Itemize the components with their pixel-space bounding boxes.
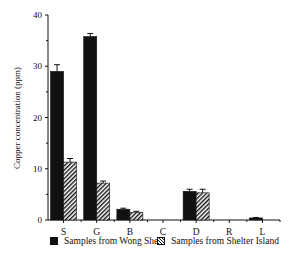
legend-item-wong-shek: Samples from Wong Shek (50, 236, 163, 246)
y-tick-label: 30 (33, 61, 43, 71)
bar (117, 209, 130, 220)
bar (249, 218, 262, 220)
bar (130, 212, 143, 220)
bar (51, 71, 64, 220)
x-tick-label: B (127, 227, 133, 236)
y-tick-label: 10 (33, 164, 43, 174)
x-tick-label: C (160, 227, 166, 236)
legend-label: Samples from Shelter Island (171, 236, 279, 246)
x-tick-label: D (193, 227, 200, 236)
bar (183, 191, 196, 220)
x-tick-label: S (61, 227, 66, 236)
x-tick-label: L (260, 227, 266, 236)
y-tick-label: 40 (33, 10, 43, 20)
legend-label: Samples from Wong Shek (64, 236, 163, 246)
bar (64, 162, 77, 220)
x-tick-label: R (226, 227, 233, 236)
bar (97, 183, 110, 220)
legend-item-shelter-island: Samples from Shelter Island (157, 236, 279, 246)
bar (84, 37, 97, 220)
chart-legend: Samples from Wong Shek Samples from Shel… (0, 236, 297, 256)
bar-chart: 010203040SGBCDRL Copper concentration (p… (0, 0, 297, 236)
legend-swatch-solid (50, 237, 58, 245)
chart-bars (51, 33, 263, 220)
x-tick-label: G (93, 227, 100, 236)
y-axis-label: Copper concentration (ppm) (12, 67, 22, 169)
legend-swatch-hatched (157, 237, 165, 245)
y-tick-label: 20 (33, 113, 43, 123)
y-tick-label: 0 (38, 215, 43, 225)
bar (196, 193, 209, 220)
